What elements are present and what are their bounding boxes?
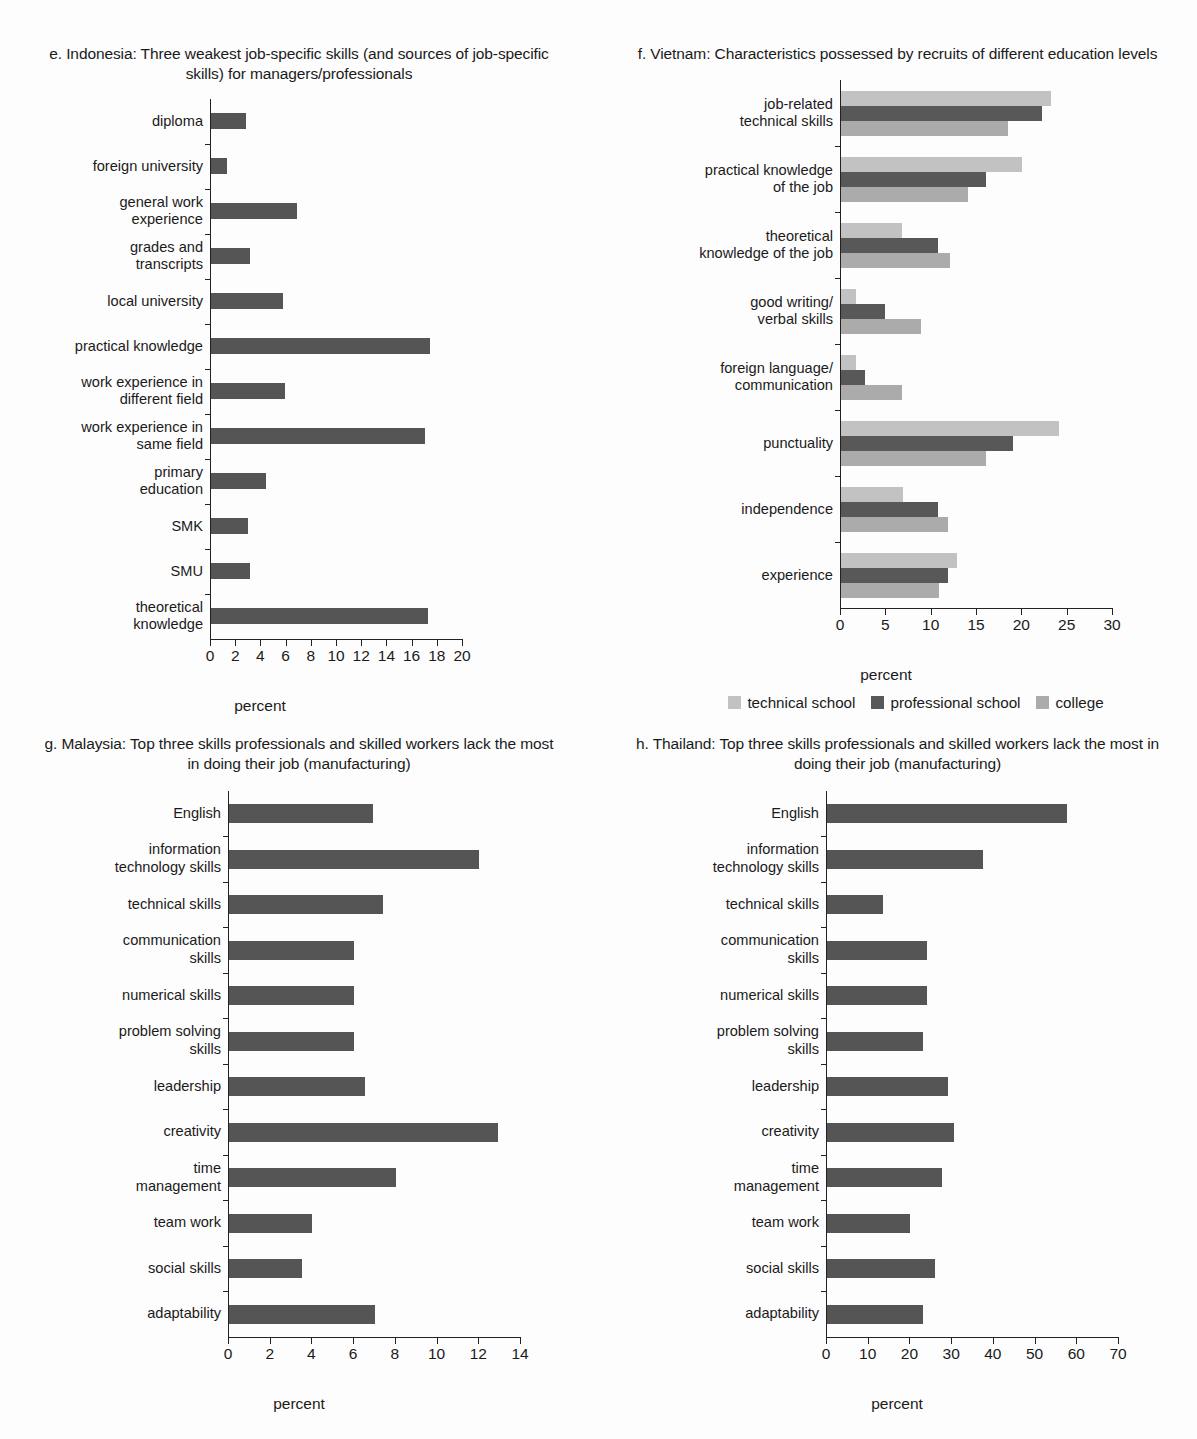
x-axis-tick (235, 639, 236, 646)
bar-technical-school (841, 157, 1022, 172)
panel-h-title: h. Thailand: Top three skills profession… (598, 734, 1197, 775)
plot-area (210, 234, 462, 279)
category-label: English (676, 805, 826, 823)
category-label: SMK (58, 518, 210, 536)
bar-college (841, 583, 939, 598)
chart-h-row: English (676, 791, 1197, 837)
chart-h-row: social skills (676, 1246, 1197, 1292)
plot-area (210, 324, 462, 369)
bar (827, 850, 983, 869)
plot-area (228, 1109, 520, 1155)
x-axis-tick-label: 50 (1026, 1345, 1043, 1363)
bar-professional-school (841, 436, 1013, 451)
bar (211, 113, 246, 129)
x-axis-tick (1067, 608, 1068, 615)
bar (827, 1305, 923, 1324)
x-axis-tick (412, 639, 413, 646)
plot-area (210, 459, 462, 504)
panel-e-title: e. Indonesia: Three weakest job-specific… (0, 44, 598, 85)
bar-group (827, 836, 1118, 882)
plot-area (826, 1109, 1118, 1155)
bar-technical-school (841, 91, 1051, 106)
plot-area (826, 836, 1118, 882)
x-axis-tick-label: 2 (231, 647, 240, 665)
bar-professional-school (841, 238, 938, 253)
bar (229, 1032, 354, 1051)
category-label: problem solving skills (676, 1023, 826, 1059)
plot-area (228, 836, 520, 882)
chart-f-row: punctuality (660, 410, 1197, 476)
x-axis-tick-label: 2 (265, 1345, 274, 1363)
x-axis-tick-label: 20 (1013, 616, 1030, 634)
category-label: practical knowledge (58, 338, 210, 356)
bar-group (211, 504, 462, 549)
chart-f-legend: technical schoolprofessional schoolcolle… (660, 694, 1172, 711)
panel-f-title: f. Vietnam: Characteristics possessed by… (598, 44, 1197, 64)
bar-group (211, 459, 462, 504)
bar (211, 338, 430, 354)
category-label: communication skills (78, 932, 228, 968)
x-axis-tick-label: 10 (922, 616, 939, 634)
bar-group (211, 324, 462, 369)
bar-professional-school (841, 568, 948, 583)
bar (211, 293, 283, 309)
chart-f: job-related technical skillspractical kn… (660, 80, 1197, 711)
bar-group (841, 542, 1112, 608)
legend-label: college (1055, 694, 1103, 711)
x-axis-tick (395, 1337, 396, 1344)
bar-group (841, 146, 1112, 212)
category-label: creativity (78, 1123, 228, 1141)
panel-malaysia: g. Malaysia: Top three skills profession… (0, 718, 598, 1439)
chart-e-row: work experience in same field (58, 414, 598, 459)
category-label: grades and transcripts (58, 239, 210, 275)
x-axis-tick-label: 18 (428, 647, 445, 665)
category-label: time management (676, 1160, 826, 1196)
plot-area (826, 1018, 1118, 1064)
x-axis-tick-label: 0 (836, 616, 845, 634)
legend-item[interactable]: professional school (871, 694, 1020, 711)
bar-group (211, 234, 462, 279)
bar-group (841, 344, 1112, 410)
category-label: general work experience (58, 194, 210, 230)
plot-area (840, 344, 1112, 410)
bar-technical-school (841, 421, 1059, 436)
x-axis-tick-label: 20 (901, 1345, 918, 1363)
category-label: information technology skills (676, 841, 826, 877)
bar (211, 383, 285, 399)
bar-group (211, 594, 462, 639)
category-label: diploma (58, 113, 210, 131)
chart-h-row: information technology skills (676, 836, 1197, 882)
legend-item[interactable]: technical school (728, 694, 855, 711)
chart-f-rows: job-related technical skillspractical kn… (660, 80, 1197, 608)
x-axis-tick-label: 20 (453, 647, 470, 665)
category-label: job-related technical skills (660, 96, 840, 132)
bar (827, 941, 927, 960)
category-label: adaptability (676, 1305, 826, 1323)
plot-area (228, 973, 520, 1019)
bar-college (841, 121, 1008, 136)
plot-area (826, 1155, 1118, 1201)
category-label: theoretical knowledge of the job (660, 228, 840, 264)
x-axis-tick (976, 608, 977, 615)
panel-indonesia: e. Indonesia: Three weakest job-specific… (0, 0, 598, 718)
plot-area (826, 882, 1118, 928)
bar (229, 1259, 302, 1278)
chart-g-x-axis: 02468101214 (78, 1337, 598, 1371)
bar-group (827, 1200, 1118, 1246)
bar-group (827, 1018, 1118, 1064)
bar (211, 248, 250, 264)
x-axis-tick (361, 639, 362, 646)
legend-label: professional school (890, 694, 1020, 711)
chart-h-x-axis: 010203040506070 (676, 1337, 1197, 1371)
bar-group (827, 1155, 1118, 1201)
category-label: technical skills (676, 896, 826, 914)
bar-professional-school (841, 304, 885, 319)
legend-item[interactable]: college (1036, 694, 1103, 711)
chart-g-row: team work (78, 1200, 598, 1246)
x-axis-tick-label: 4 (256, 647, 265, 665)
bar-college (841, 319, 921, 334)
category-label: English (78, 805, 228, 823)
bar-group (229, 1018, 520, 1064)
x-axis-tick-label: 6 (349, 1345, 358, 1363)
bar (827, 1077, 948, 1096)
